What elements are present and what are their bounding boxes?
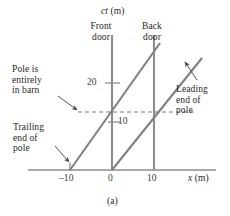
x-axis-label-unit: (m) bbox=[195, 173, 209, 183]
x-tick-label-10: 10 bbox=[147, 173, 157, 184]
pole-in-barn-label: Pole is entirely in barn bbox=[12, 64, 42, 96]
x-tick-label-minus10: –10 bbox=[59, 173, 74, 184]
front-door-label: Front door bbox=[79, 21, 123, 42]
spacetime-diagram-figure: ct (m) x (m) Front door Back door 20 10 … bbox=[0, 0, 230, 216]
y-tick-label-10: 10 bbox=[118, 116, 128, 127]
trailing-end-worldline bbox=[70, 43, 160, 170]
x-tick-label-0: 0 bbox=[108, 173, 113, 184]
x-axis-label: x (m) bbox=[188, 173, 209, 184]
trailing-end-arrow bbox=[55, 146, 69, 162]
pole-in-barn-arrow bbox=[58, 96, 77, 110]
y-axis-label-symbol: ct bbox=[101, 6, 108, 16]
y-tick-label-20: 20 bbox=[87, 77, 97, 88]
y-axis-label: ct (m) bbox=[101, 6, 125, 17]
trailing-end-label: Trailing end of pole bbox=[13, 122, 44, 154]
figure-caption: (a) bbox=[107, 196, 118, 207]
back-door-label: Back door bbox=[130, 21, 174, 42]
y-axis-label-unit: (m) bbox=[111, 6, 125, 16]
leading-end-label: Leading end of pole bbox=[176, 84, 208, 116]
